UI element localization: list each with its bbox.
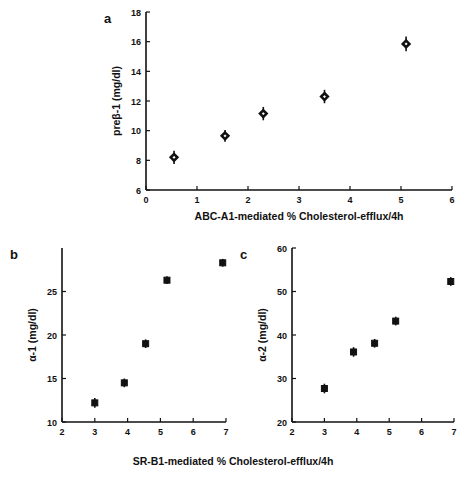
x-axis-label: ABC-A1-mediated % Cholesterol-efflux/4h: [195, 210, 404, 222]
x-tick-label: 2: [289, 427, 294, 437]
y-tick-label: 8: [136, 156, 141, 166]
data-point: [121, 380, 127, 386]
x-tick-label: 5: [387, 427, 392, 437]
x-tick-label: 4: [354, 427, 359, 437]
data-series: [171, 36, 410, 164]
x-tick-label: 6: [191, 427, 196, 437]
x-tick-label: 3: [296, 195, 301, 205]
x-tick-label: 5: [158, 427, 163, 437]
shared-x-axis-label: SR-B1-mediated % Cholesterol-efflux/4h: [0, 455, 466, 467]
x-tick-label: 7: [223, 427, 228, 437]
plot-svg-c: c2345672030405060α-2 (mg/dl): [236, 236, 466, 458]
y-tick-label: 15: [47, 374, 57, 384]
y-tick-label: 12: [131, 97, 141, 107]
chart-panel-b: b23456710152025α-1 (mg/dl): [6, 236, 238, 458]
x-tick-label: 2: [245, 195, 250, 205]
y-axis-label: α-1 (mg/dl): [26, 308, 38, 362]
y-tick-label: 20: [277, 418, 287, 428]
data-point: [372, 340, 378, 346]
panel-letter-c: c: [240, 247, 247, 262]
data-point: [143, 341, 149, 347]
data-point: [220, 260, 226, 266]
data-point: [92, 400, 98, 406]
data-point: [321, 93, 328, 100]
x-tick-label: 5: [398, 195, 403, 205]
x-tick-label: 1: [194, 195, 199, 205]
y-tick-label: 25: [47, 287, 57, 297]
y-tick-label: 16: [131, 37, 141, 47]
chart-panel-c: c2345672030405060α-2 (mg/dl): [236, 236, 466, 458]
data-series: [321, 277, 453, 393]
data-point: [260, 110, 267, 117]
y-axis-label: preβ-1 (mg/dl): [110, 66, 122, 136]
data-point: [171, 154, 178, 161]
data-point: [164, 277, 170, 283]
figure-container: a0123456681012141618preβ-1 (mg/dl)ABC-A1…: [0, 0, 466, 490]
panel-letter-a: a: [104, 11, 112, 26]
data-point: [351, 349, 357, 355]
plot-svg-a: a0123456681012141618preβ-1 (mg/dl)ABC-A1…: [100, 0, 466, 236]
y-tick-label: 10: [47, 418, 57, 428]
data-point: [448, 278, 454, 284]
data-point: [393, 318, 399, 324]
x-tick-label: 0: [143, 195, 148, 205]
x-tick-label: 2: [59, 427, 64, 437]
x-tick-label: 4: [347, 195, 352, 205]
y-axis-label: α-2 (mg/dl): [256, 308, 268, 362]
panel-letter-b: b: [10, 247, 18, 262]
x-tick-label: 6: [449, 195, 454, 205]
x-tick-label: 3: [322, 427, 327, 437]
x-tick-label: 3: [92, 427, 97, 437]
y-tick-label: 14: [131, 67, 141, 77]
data-point: [403, 41, 410, 48]
y-tick-label: 50: [277, 287, 287, 297]
data-point: [321, 386, 327, 392]
y-tick-label: 40: [277, 331, 287, 341]
y-tick-label: 6: [136, 186, 141, 196]
y-tick-label: 18: [131, 8, 141, 18]
y-tick-label: 20: [47, 331, 57, 341]
data-point: [222, 133, 229, 140]
x-tick-label: 7: [451, 427, 456, 437]
y-tick-label: 60: [277, 244, 287, 254]
chart-panel-a: a0123456681012141618preβ-1 (mg/dl)ABC-A1…: [100, 0, 466, 236]
plot-svg-b: b23456710152025α-1 (mg/dl): [6, 236, 238, 458]
data-series: [92, 259, 226, 408]
x-tick-label: 6: [419, 427, 424, 437]
y-tick-label: 30: [277, 374, 287, 384]
x-tick-label: 4: [125, 427, 130, 437]
y-tick-label: 10: [131, 126, 141, 136]
